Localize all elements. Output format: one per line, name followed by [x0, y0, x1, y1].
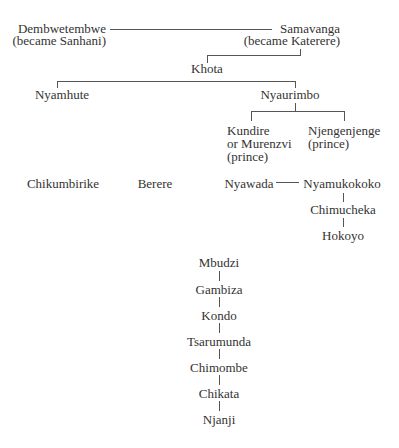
node-name: Chimucheka [310, 204, 376, 216]
node-name: Nyawada [224, 178, 273, 190]
node-name: Chikumbirike [27, 178, 99, 190]
connector [251, 111, 345, 112]
node-kundire: Kundire or Murenzvi (prince) [227, 124, 292, 163]
connector [219, 297, 220, 307]
connector [219, 375, 220, 385]
node-name: Nyaurimbo [260, 89, 319, 101]
node-name: Gambiza [196, 284, 243, 296]
connector [343, 218, 344, 227]
node-name: Berere [138, 178, 173, 190]
node-kondo: Kondo [201, 310, 236, 322]
node-tsarumunda: Tsarumunda [187, 336, 251, 348]
link-nyawada-nyamukokoko [276, 182, 299, 183]
connector [295, 103, 296, 111]
node-name: Nyamhute [35, 89, 89, 101]
node-gambiza: Gambiza [196, 284, 243, 296]
node-name: Mbudzi [199, 257, 239, 269]
node-mbudzi: Mbudzi [199, 257, 239, 269]
node-name: Tsarumunda [187, 336, 251, 348]
node-hokoyo: Hokoyo [322, 230, 364, 242]
node-note: (prince) [227, 150, 292, 163]
node-nyaurimbo: Nyaurimbo [260, 89, 319, 101]
node-chikumbirike: Chikumbirike [27, 178, 99, 190]
node-name: Nyamukokoko [303, 178, 380, 190]
connector [219, 349, 220, 359]
node-nyamukokoko: Nyamukokoko [303, 178, 380, 190]
node-name: Kondo [201, 310, 236, 322]
connector [219, 271, 220, 281]
connector [343, 193, 344, 202]
node-nyamhute: Nyamhute [35, 89, 89, 101]
node-njanji: Njanji [203, 414, 236, 426]
connector [251, 111, 252, 121]
node-name: Khota [191, 63, 223, 75]
connector [344, 111, 345, 121]
node-name: Njanji [203, 414, 236, 426]
node-khota: Khota [191, 63, 223, 75]
node-note: (prince) [308, 137, 380, 150]
connector [57, 81, 296, 82]
node-berere: Berere [138, 178, 173, 190]
node-name: Chimombe [190, 362, 248, 374]
node-note: (became Sanhani) [10, 35, 106, 47]
connector [207, 55, 301, 56]
connector [219, 323, 220, 333]
node-samavanga: Samavanga (became Katerere) [240, 23, 340, 47]
connector [219, 401, 220, 411]
node-dembwetembwe: Dembwetembwe (became Sanhani) [10, 23, 106, 47]
node-nyawada: Nyawada [224, 178, 273, 190]
node-chikata: Chikata [199, 388, 239, 400]
node-njengenjenge: Njengenjenge (prince) [308, 124, 380, 150]
node-chimombe: Chimombe [190, 362, 248, 374]
node-chimucheka: Chimucheka [310, 204, 376, 216]
node-name: Hokoyo [322, 230, 364, 242]
node-name: Chikata [199, 388, 239, 400]
node-note: (became Katerere) [240, 35, 340, 47]
